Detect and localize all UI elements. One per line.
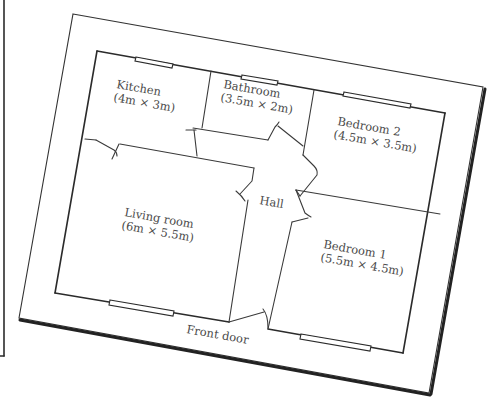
front-door-label: Front door <box>185 322 250 347</box>
bedroom2-window <box>343 92 411 108</box>
bedroom1-window <box>300 334 371 351</box>
living-window <box>109 300 174 316</box>
room-labels: Kitchen (4m × 3m) Bathroom (3.5m × 2m) B… <box>112 77 417 347</box>
hall-label: Hall <box>258 193 285 211</box>
page-frame-line <box>0 0 4 356</box>
outer-boundary <box>19 14 485 395</box>
floor-plan-diagram: Kitchen (4m × 3m) Bathroom (3.5m × 2m) B… <box>0 0 493 404</box>
kitchen-window <box>135 57 173 68</box>
